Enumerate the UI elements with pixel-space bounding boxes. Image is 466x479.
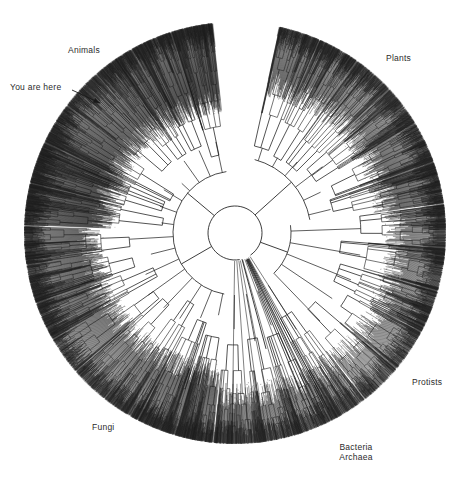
radial-phylogenetic-tree (0, 0, 466, 479)
label-archaea: Archaea (330, 453, 382, 463)
label-protists: Protists (412, 377, 442, 387)
label-plants: Plants (386, 53, 411, 63)
label-you-are-here: You are here (10, 82, 61, 92)
tree-branches (24, 23, 446, 444)
label-fungi: Fungi (92, 422, 115, 432)
label-animals: Animals (68, 45, 100, 55)
caption-remnant (60, 466, 460, 478)
tree-of-life-figure: Animals You are here Plants Protists Bac… (0, 0, 466, 479)
